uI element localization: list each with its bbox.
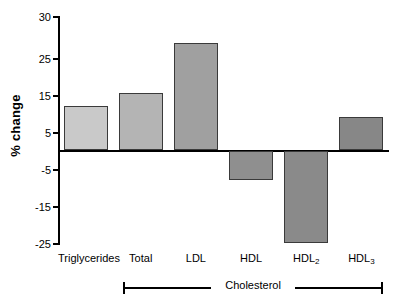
y-axis-tick-label: 25: [39, 53, 51, 65]
plot-area: 3025155-5-15-25: [58, 16, 389, 245]
y-axis-tick-label: 5: [45, 127, 51, 139]
y-axis-tick-mark: [53, 16, 58, 18]
y-axis-tick-label: -15: [35, 201, 51, 213]
x-axis-label: Total: [113, 252, 168, 264]
bar: [229, 151, 273, 181]
group-bracket: Cholesterol: [58, 278, 389, 300]
x-axis-label: LDL: [168, 252, 223, 264]
x-axis-labels: TriglyceridesTotalLDLHDLHDL2HDL3: [58, 252, 389, 270]
bar: [174, 43, 218, 150]
y-axis-tick-mark: [53, 169, 58, 171]
y-axis-tick-mark: [53, 58, 58, 60]
bar: [64, 106, 108, 150]
bar: [284, 151, 328, 244]
group-bracket-label: Cholesterol: [213, 279, 293, 291]
bracket-line-left: [123, 287, 211, 289]
y-axis-tick-label: 30: [39, 11, 51, 23]
bar-chart: % change 3025155-5-15-25 TriglyceridesTo…: [0, 0, 396, 303]
y-axis-tick-label: -25: [35, 238, 51, 250]
bracket-cap-right: [381, 282, 383, 294]
y-axis-tick-mark: [53, 206, 58, 208]
y-axis-tick-mark: [53, 243, 58, 245]
x-axis-label: HDL: [224, 252, 279, 264]
x-axis-label: HDL3: [334, 252, 389, 264]
bracket-line-right: [295, 287, 383, 289]
y-axis-tick-mark: [53, 95, 58, 97]
y-axis-tick-label: 15: [39, 90, 51, 102]
bar: [339, 117, 383, 150]
bar: [119, 93, 163, 150]
x-axis-label: Triglycerides: [58, 252, 113, 264]
y-axis-tick-mark: [53, 132, 58, 134]
y-axis-line: [58, 16, 60, 245]
y-axis-tick-label: -5: [41, 164, 51, 176]
y-axis-title-text: % change: [8, 94, 23, 156]
x-axis-label: HDL2: [279, 252, 334, 264]
y-axis-title: % change: [2, 0, 28, 250]
